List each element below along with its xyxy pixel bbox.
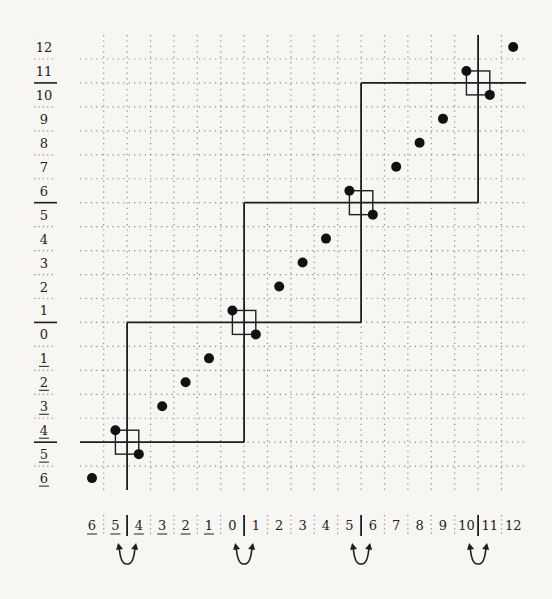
arrowhead-icon [116,543,123,550]
data-point [508,42,518,52]
arrowhead-icon [248,543,255,550]
permutation-points [87,42,518,483]
arrowhead-icon [131,543,138,550]
column-label: 8 [415,518,423,533]
row-labels: 1211109876543210123456 [34,40,57,486]
data-point [157,401,167,411]
column-label: 4 [322,518,330,533]
column-labels: 6543210123456789101112 [87,515,521,536]
column-label: 7 [392,518,400,533]
row-label: 4 [40,232,48,247]
column-label: 12 [505,518,522,533]
column-label: 0 [228,518,236,533]
row-label: 12 [36,40,53,55]
swap-arrows [116,543,489,564]
arrowhead-icon [365,543,372,550]
data-point [461,66,471,76]
row-label: 3 [40,399,48,414]
row-label: 1 [40,351,48,366]
column-label: 11 [482,518,499,533]
data-point [321,234,331,244]
row-label: 9 [40,112,48,127]
column-label: 2 [181,518,189,533]
arrowhead-icon [233,543,240,550]
data-point [391,162,401,172]
data-point [485,90,495,100]
data-point [251,329,261,339]
data-point [274,282,284,292]
arrowhead-icon [350,543,357,550]
column-label: 5 [345,518,353,533]
column-label: 5 [111,518,119,533]
row-label: 3 [40,256,48,271]
column-label: 4 [135,518,143,533]
column-label: 3 [158,518,166,533]
row-label: 11 [36,64,53,79]
data-point [87,473,97,483]
data-point [181,377,191,387]
row-label: 5 [40,447,48,462]
data-point [344,186,354,196]
data-point [298,258,308,268]
row-label: 5 [40,208,48,223]
data-point [415,138,425,148]
row-label: 6 [40,184,48,199]
row-label: 8 [40,136,48,151]
data-point [438,114,448,124]
row-label: 10 [36,88,53,103]
row-label: 4 [40,423,48,438]
data-point [134,449,144,459]
row-label: 2 [40,375,48,390]
column-label: 2 [275,518,283,533]
row-label: 6 [40,471,48,486]
permutation-diagram: 1211109876543210123456 65432101234567891… [0,0,552,599]
arrowhead-icon [467,543,474,550]
column-label: 1 [205,518,213,533]
column-label: 6 [88,518,96,533]
row-label: 2 [40,280,48,295]
data-point [204,353,214,363]
data-point [227,305,237,315]
row-label: 7 [40,160,48,175]
row-label: 0 [40,327,48,342]
column-label: 9 [439,518,447,533]
column-label: 1 [252,518,260,533]
row-label: 1 [40,303,48,318]
data-point [110,425,120,435]
column-label: 10 [458,518,475,533]
arrowhead-icon [482,543,489,550]
column-label: 6 [369,518,377,533]
column-label: 3 [298,518,306,533]
data-point [368,210,378,220]
